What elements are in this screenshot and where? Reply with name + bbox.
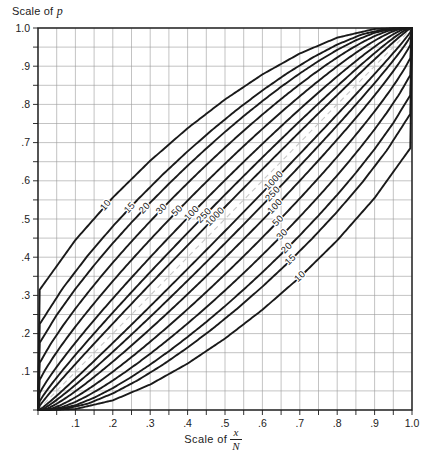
y-tick-label-6: .6 bbox=[21, 174, 30, 186]
y-tick-label-5: .5 bbox=[21, 213, 30, 225]
x-axis-numerator: x bbox=[230, 427, 241, 438]
x-axis-denominator: N bbox=[230, 441, 241, 452]
binomial-confidence-belt-chart: 1010151520203030505010010025025010001000… bbox=[0, 0, 426, 452]
y-tick-label-1: .1 bbox=[21, 365, 30, 377]
y-tick-label-8: .8 bbox=[21, 98, 30, 110]
y-tick-label-7: .7 bbox=[21, 136, 30, 148]
y-tick-label-2: .2 bbox=[21, 327, 30, 339]
y-tick-label-10: 1.0 bbox=[15, 22, 30, 34]
y-tick-label-4: .4 bbox=[21, 251, 30, 263]
y-tick-label-9: .9 bbox=[21, 60, 30, 72]
x-axis-fraction: xN bbox=[230, 427, 241, 452]
x-axis-title: Scale ofxN bbox=[0, 428, 426, 452]
x-axis-title-text: Scale of bbox=[184, 433, 227, 445]
axis-tick-labels: .1.2.3.4.5.6.7.8.91.0.1.2.3.4.5.6.7.8.91… bbox=[15, 22, 419, 429]
y-tick-label-3: .3 bbox=[21, 289, 30, 301]
